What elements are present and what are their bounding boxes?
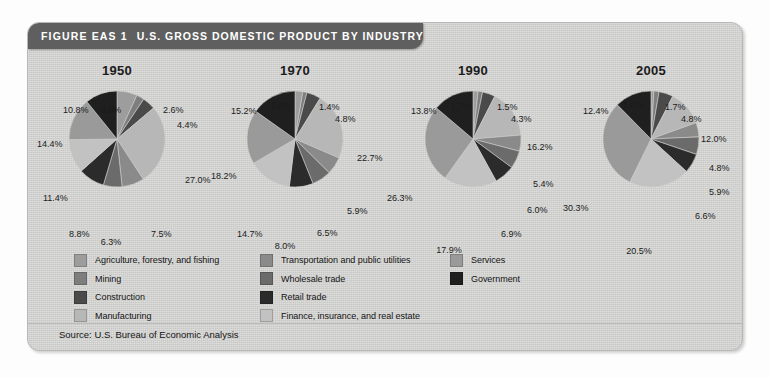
legend-label: Construction — [95, 292, 145, 302]
pie-slice-value: 6.6% — [695, 211, 716, 221]
pie-slice-value: 6.9% — [501, 229, 522, 239]
legend-label: Transportation and public utilities — [281, 255, 411, 265]
source-divider — [28, 323, 742, 324]
pie-slice-value: 8.8% — [69, 229, 90, 239]
legend-swatch — [450, 254, 463, 267]
pie-slice-value: 14.7% — [237, 229, 263, 239]
pie-slice-value: 1.0% — [619, 100, 647, 110]
pie-year-label: 1970 — [206, 63, 384, 78]
pie-slice-value: 8.0% — [271, 241, 299, 251]
pie-slice-value: 11.4% — [43, 193, 68, 203]
pie-body — [67, 89, 167, 189]
legend-swatch — [450, 272, 463, 285]
legend-label: Agriculture, forestry, and fishing — [95, 255, 219, 265]
pie-slice-value: 13.8% — [411, 106, 437, 116]
legend-swatch — [260, 272, 273, 285]
pie-slice-value: 14.4% — [37, 139, 63, 149]
legend-swatch — [260, 309, 273, 322]
legend-column-3: ServicesGovernment — [450, 251, 600, 288]
legend-swatch — [260, 254, 273, 267]
pie-chart-2005: 20051.0%1.7%4.8%12.0%4.8%5.9%6.6%20.5%30… — [562, 53, 740, 258]
source-note: Source: U.S. Bureau of Economic Analysis — [59, 329, 239, 340]
pie-slice-value: 1.4% — [319, 102, 340, 112]
pie-slice-value: 10.8% — [63, 105, 89, 115]
pie-slice-value: 4.3% — [511, 114, 532, 124]
pie-slice-value: 6.8% — [97, 105, 125, 115]
pie-slice-value: 2.6% — [163, 105, 184, 115]
pie-slice-value: 2.6% — [267, 101, 295, 111]
pie-slice-value: 4.8% — [709, 163, 730, 173]
pie-charts-row: 19506.8%2.6%4.4%27.0%7.5%6.3%8.8%11.4%14… — [28, 53, 742, 258]
pie-slice-value: 18.2% — [211, 171, 237, 181]
pie-body — [601, 89, 701, 189]
pie-chart-1970: 19702.6%1.4%4.8%22.7%5.9%6.5%8.0%14.7%18… — [206, 53, 384, 258]
pie-slice-value: 12.0% — [701, 134, 727, 144]
pie-slice-value: 30.3% — [563, 203, 589, 213]
pie-slice-value: 4.8% — [335, 114, 356, 124]
pie-slice-value: 5.4% — [533, 179, 554, 189]
legend-label: Wholesale trade — [281, 274, 345, 284]
legend-item: Mining — [74, 270, 260, 289]
figure-title: U.S. GROSS DOMESTIC PRODUCT BY INDUSTRY — [137, 30, 424, 42]
pie-slice-value: 16.2% — [527, 142, 553, 152]
legend-item: Wholesale trade — [260, 270, 450, 289]
pie-slice-value: 4.4% — [177, 120, 198, 130]
legend-swatch — [74, 309, 87, 322]
legend-item: Agriculture, forestry, and fishing — [74, 251, 260, 270]
legend-item: Services — [450, 251, 600, 270]
legend-label: Mining — [95, 274, 121, 284]
pie-year-label: 1950 — [28, 63, 206, 78]
pie-chart-1990: 19901.7%1.5%4.3%16.2%5.4%6.0%6.9%17.9%26… — [384, 53, 562, 258]
pie-slice-value: 1.7% — [665, 102, 686, 112]
legend-label: Finance, insurance, and real estate — [281, 311, 420, 321]
legend-item: Retail trade — [260, 288, 450, 307]
legend-label: Government — [471, 274, 520, 284]
legend-item: Construction — [74, 288, 260, 307]
pie-year-label: 1990 — [384, 63, 562, 78]
figure-header-bar: FIGURE EAS 1 U.S. GROSS DOMESTIC PRODUCT… — [28, 23, 423, 49]
pie-chart-1950: 19506.8%2.6%4.4%27.0%7.5%6.3%8.8%11.4%14… — [28, 53, 206, 258]
legend-swatch — [74, 254, 87, 267]
pie-slice-value: 1.5% — [497, 102, 518, 112]
legend-label: Manufacturing — [95, 311, 151, 321]
legend-column-1: Agriculture, forestry, and fishingMining… — [74, 251, 260, 325]
pie-slice-value: 1.7% — [447, 101, 475, 111]
legend-swatch — [74, 272, 87, 285]
pie-slice-value: 15.2% — [231, 106, 257, 116]
pie-slice-value: 6.3% — [97, 237, 125, 247]
pie-slice-value: 4.8% — [681, 114, 702, 124]
chart-legend: Agriculture, forestry, and fishingMining… — [74, 251, 734, 329]
legend-swatch — [260, 291, 273, 304]
pie-slice-value: 22.7% — [357, 153, 383, 163]
legend-label: Services — [471, 255, 505, 265]
pie-slice-value: 5.9% — [709, 187, 730, 197]
figure-number: FIGURE EAS 1 — [41, 30, 128, 42]
pie-slice-value: 5.9% — [347, 206, 368, 216]
legend-item: Transportation and public utilities — [260, 251, 450, 270]
figure-panel: FIGURE EAS 1 U.S. GROSS DOMESTIC PRODUCT… — [27, 22, 743, 351]
legend-item: Government — [450, 270, 600, 289]
figure-page: FIGURE EAS 1 U.S. GROSS DOMESTIC PRODUCT… — [0, 0, 769, 377]
pie-slice-value: 7.5% — [151, 229, 172, 239]
pie-slice-value: 26.3% — [387, 193, 413, 203]
pie-slice-value: 6.5% — [317, 228, 338, 238]
pie-slice-value: 6.0% — [527, 205, 548, 215]
legend-swatch — [74, 291, 87, 304]
legend-label: Retail trade — [281, 292, 326, 302]
legend-column-2: Transportation and public utilitiesWhole… — [260, 251, 450, 325]
pie-slice-value: 12.4% — [583, 106, 609, 116]
pie-year-label: 2005 — [562, 63, 740, 78]
